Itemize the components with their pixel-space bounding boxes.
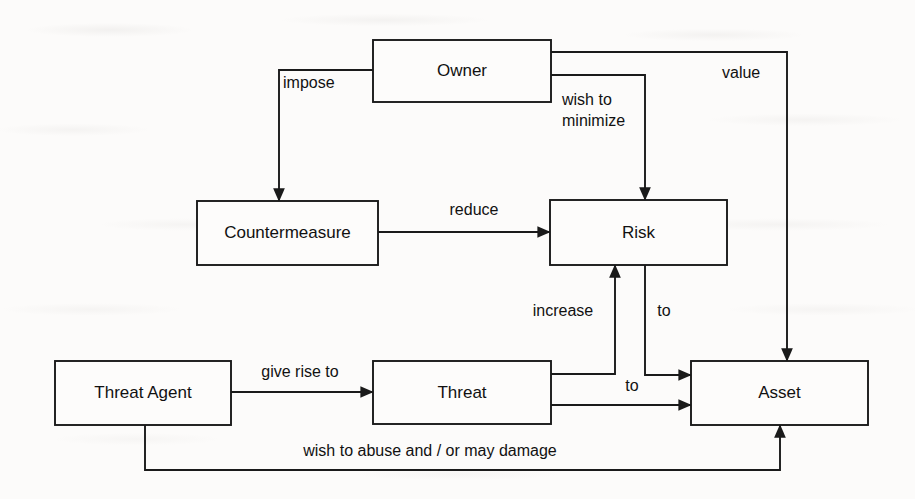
edge-risk-to-asset — [645, 265, 691, 375]
node-asset[interactable]: Asset — [691, 361, 868, 425]
edge-label-threat-agent-gives-rise-to-threat: give rise to — [261, 363, 338, 380]
node-label-countermeasure: Countermeasure — [224, 223, 351, 242]
node-label-threat-agent: Threat Agent — [94, 383, 192, 402]
edge-threat-increases-risk — [551, 265, 615, 374]
node-countermeasure[interactable]: Countermeasure — [197, 201, 378, 265]
node-threat[interactable]: Threat — [373, 361, 551, 424]
node-label-asset: Asset — [758, 383, 801, 402]
node-label-owner: Owner — [437, 61, 487, 80]
node-risk[interactable]: Risk — [550, 200, 727, 265]
risk-relationship-diagram: OwnerCountermeasureRiskThreat AgentThrea… — [0, 0, 915, 499]
edge-label-risk-to-asset: to — [657, 302, 670, 319]
node-owner[interactable]: Owner — [373, 40, 551, 102]
edge-label-owner-wishes-to-minimize-risk: wish tominimize — [561, 91, 625, 129]
node-threat-agent[interactable]: Threat Agent — [55, 361, 231, 425]
edge-label-threat-increases-risk: increase — [533, 302, 594, 319]
edge-label-threat-agent-abuses-asset: wish to abuse and / or may damage — [302, 442, 557, 459]
diagram-canvas: OwnerCountermeasureRiskThreat AgentThrea… — [0, 0, 915, 499]
node-label-risk: Risk — [622, 223, 656, 242]
edge-label-threat-to-asset: to — [625, 377, 638, 394]
node-label-threat: Threat — [437, 383, 486, 402]
edge-label-owner-imposes-countermeasure: impose — [283, 74, 335, 91]
edge-label-owner-values-asset: value — [722, 64, 760, 81]
edge-label-countermeasure-reduces-risk: reduce — [450, 201, 499, 218]
